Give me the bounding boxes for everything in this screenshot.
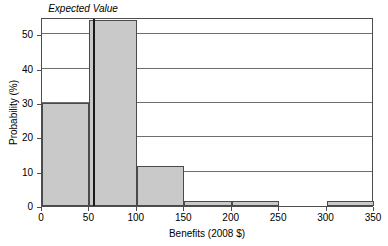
x-tick-350: [373, 207, 374, 211]
x-tick-label-350: 350: [353, 212, 388, 224]
bar-100-150: [137, 166, 184, 206]
x-axis-title: Benefits (2008 $): [41, 228, 373, 239]
bar-50-100: [89, 20, 136, 206]
plot-area: [41, 18, 373, 207]
y-tick-30: [37, 104, 41, 105]
x-tick-label-200: 200: [211, 212, 251, 224]
x-tick-label-50: 50: [68, 212, 108, 224]
x-tick-label-250: 250: [258, 212, 298, 224]
y-tick-20: [37, 138, 41, 139]
y-tick-label-50: 50: [0, 29, 33, 41]
histogram-figure: Expected Value 050100150200250300350 010…: [0, 0, 388, 246]
expected-value-label: Expected Value: [48, 3, 118, 15]
expected-value-line: [93, 19, 95, 206]
y-tick-10: [37, 173, 41, 174]
x-tick-label-0: 0: [21, 212, 61, 224]
y-tick-50: [37, 35, 41, 36]
y-tick-label-0: 0: [0, 201, 33, 213]
x-tick-150: [183, 207, 184, 211]
bar-300-350: [327, 201, 374, 206]
x-tick-label-300: 300: [306, 212, 346, 224]
y-tick-0: [37, 207, 41, 208]
x-tick-50: [88, 207, 89, 211]
y-tick-40: [37, 70, 41, 71]
bar-0-50: [42, 103, 89, 206]
x-tick-300: [326, 207, 327, 211]
x-tick-250: [278, 207, 279, 211]
x-tick-100: [136, 207, 137, 211]
x-tick-200: [231, 207, 232, 211]
x-tick-label-150: 150: [163, 212, 203, 224]
x-tick-label-100: 100: [116, 212, 156, 224]
bar-150-200: [184, 201, 231, 206]
x-tick-0: [41, 207, 42, 211]
y-axis-title: Probability (%): [8, 48, 19, 178]
bar-200-250: [232, 201, 279, 206]
